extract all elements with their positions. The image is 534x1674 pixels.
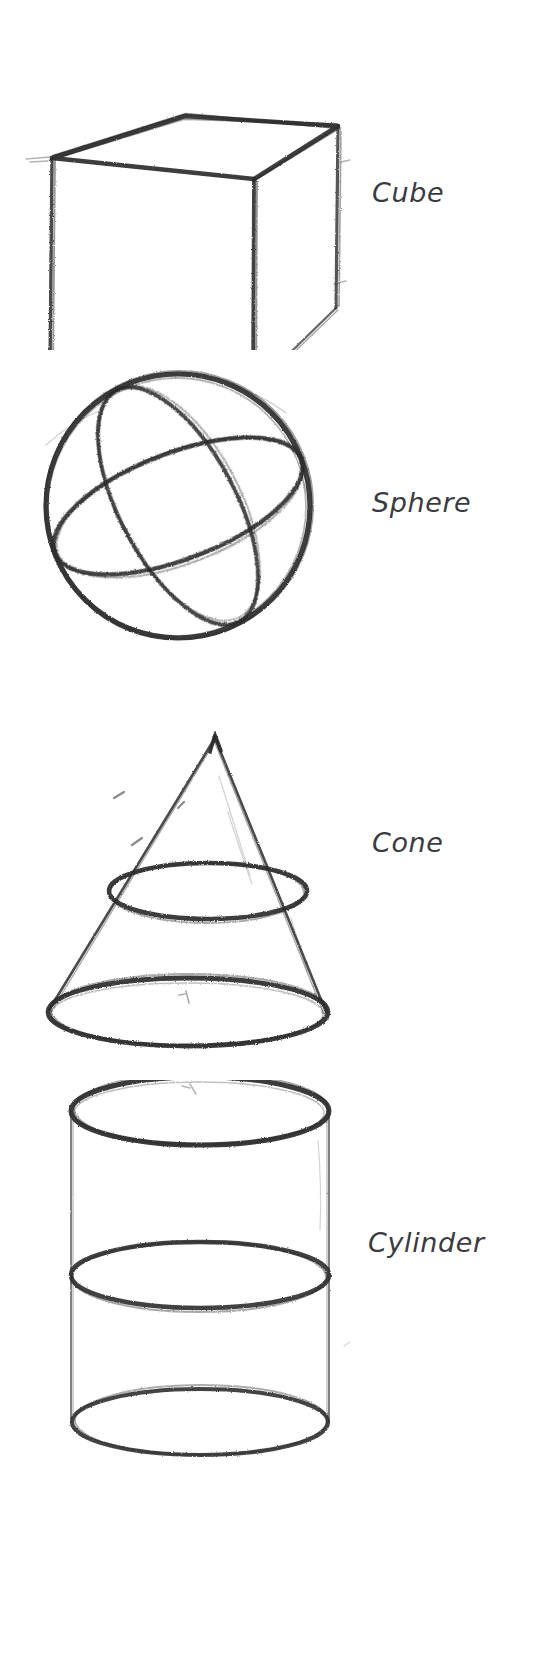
figure-label-cube: Cube	[372, 177, 444, 208]
cube-drawing	[0, 40, 534, 350]
drawing-sheet: Cube	[0, 0, 534, 1674]
figure-cylinder	[0, 1080, 534, 1640]
figure-cube	[0, 40, 534, 350]
figure-label-cylinder: Cylinder	[368, 1227, 485, 1258]
figure-label-cone: Cone	[372, 827, 444, 858]
cone-drawing	[0, 680, 534, 1080]
figure-label-sphere: Sphere	[372, 487, 471, 518]
cylinder-drawing	[0, 1080, 534, 1640]
figure-cone	[0, 680, 534, 1080]
